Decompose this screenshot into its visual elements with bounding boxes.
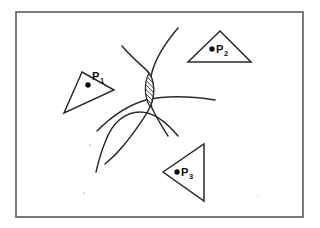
diagram-canvas: P 1 P 2 P 3 xyxy=(0,0,320,228)
diagram-svg: P 1 P 2 P 3 xyxy=(0,0,320,228)
paper-speck xyxy=(89,144,91,146)
point-dot-p2 xyxy=(209,46,214,51)
point-label-p3: P xyxy=(181,166,188,178)
outer-frame xyxy=(16,12,303,217)
point-dot-p1 xyxy=(85,82,90,87)
point-dot-p3 xyxy=(174,169,179,174)
point-subscript-p3: 3 xyxy=(189,172,193,181)
point-subscript-p1: 1 xyxy=(100,76,104,85)
point-label-p2: P xyxy=(216,43,223,55)
point-label-p1: P xyxy=(92,70,99,82)
paper-speck xyxy=(83,192,85,194)
paper-speck xyxy=(257,195,259,197)
point-subscript-p2: 2 xyxy=(224,49,228,58)
